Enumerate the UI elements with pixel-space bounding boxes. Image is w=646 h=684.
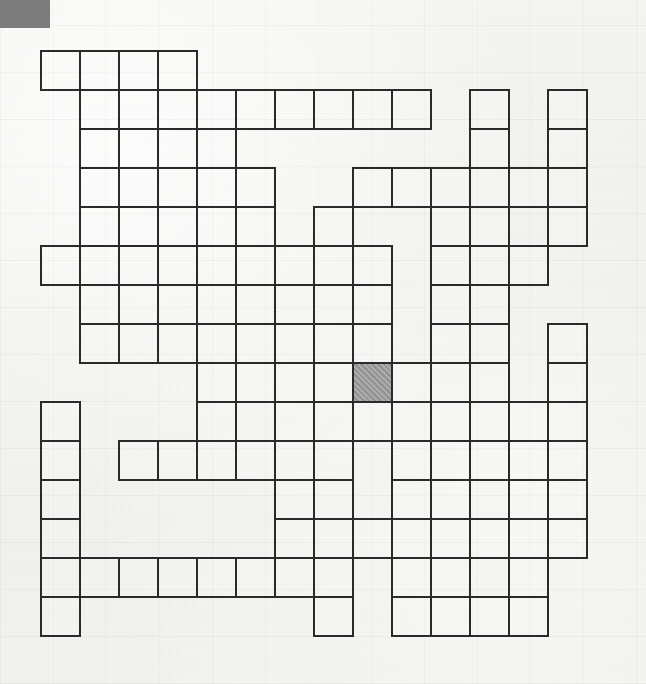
crossword-cell[interactable] — [157, 557, 198, 598]
crossword-cell[interactable] — [469, 167, 510, 208]
crossword-cell[interactable] — [196, 362, 237, 403]
crossword-cell[interactable] — [313, 362, 354, 403]
crossword-cell[interactable] — [196, 245, 237, 286]
crossword-cell[interactable] — [391, 440, 432, 481]
crossword-cell[interactable] — [235, 440, 276, 481]
crossword-cell[interactable] — [196, 401, 237, 442]
crossword-cell[interactable] — [391, 89, 432, 130]
crossword-cell[interactable] — [469, 245, 510, 286]
crossword-cell[interactable] — [235, 362, 276, 403]
crossword-cell[interactable] — [235, 323, 276, 364]
crossword-cell[interactable] — [430, 518, 471, 559]
crossword-cell[interactable] — [547, 479, 588, 520]
crossword-cell[interactable] — [430, 206, 471, 247]
crossword-cell[interactable] — [547, 323, 588, 364]
crossword-cell[interactable] — [430, 245, 471, 286]
crossword-cell[interactable] — [157, 323, 198, 364]
crossword-cell[interactable] — [118, 323, 159, 364]
crossword-cell[interactable] — [469, 89, 510, 130]
crossword-cell[interactable] — [79, 50, 120, 91]
crossword-cell[interactable] — [157, 128, 198, 169]
crossword-cell[interactable] — [469, 596, 510, 637]
crossword-cell[interactable] — [508, 167, 549, 208]
crossword-cell[interactable] — [391, 167, 432, 208]
crossword-cell[interactable] — [547, 89, 588, 130]
crossword-cell[interactable] — [469, 440, 510, 481]
crossword-cell[interactable] — [469, 323, 510, 364]
crossword-cell[interactable] — [391, 518, 432, 559]
crossword-cell[interactable] — [118, 440, 159, 481]
crossword-cell[interactable] — [196, 128, 237, 169]
crossword-cell[interactable] — [274, 401, 315, 442]
crossword-cell[interactable] — [352, 284, 393, 325]
crossword-cell[interactable] — [313, 401, 354, 442]
crossword-cell[interactable] — [235, 89, 276, 130]
crossword-cell[interactable] — [157, 50, 198, 91]
crossword-cell[interactable] — [274, 89, 315, 130]
crossword-cell[interactable] — [40, 440, 81, 481]
crossword-cell[interactable] — [352, 89, 393, 130]
crossword-cell[interactable] — [235, 167, 276, 208]
crossword-cell[interactable] — [352, 401, 393, 442]
crossword-cell[interactable] — [430, 440, 471, 481]
crossword-cell[interactable] — [352, 323, 393, 364]
crossword-cell[interactable] — [118, 557, 159, 598]
crossword-cell[interactable] — [196, 206, 237, 247]
crossword-cell[interactable] — [352, 167, 393, 208]
crossword-cell[interactable] — [391, 596, 432, 637]
crossword-cell[interactable] — [313, 323, 354, 364]
crossword-cell[interactable] — [469, 128, 510, 169]
crossword-cell[interactable] — [352, 518, 393, 559]
crossword-cell[interactable] — [79, 323, 120, 364]
crossword-cell[interactable] — [157, 206, 198, 247]
crossword-cell[interactable] — [157, 89, 198, 130]
crossword-cell[interactable] — [508, 518, 549, 559]
crossword-cell[interactable] — [430, 167, 471, 208]
crossword-cell[interactable] — [547, 128, 588, 169]
crossword-cell[interactable] — [430, 596, 471, 637]
crossword-cell[interactable] — [508, 401, 549, 442]
crossword-cell[interactable] — [40, 479, 81, 520]
crossword-cell[interactable] — [430, 362, 471, 403]
crossword-cell[interactable] — [79, 206, 120, 247]
crossword-cell[interactable] — [391, 557, 432, 598]
crossword-cell[interactable] — [313, 479, 354, 520]
crossword-cell[interactable] — [313, 596, 354, 637]
crossword-cell[interactable] — [469, 206, 510, 247]
crossword-cell[interactable] — [235, 557, 276, 598]
crossword-cell[interactable] — [40, 518, 81, 559]
crossword-cell[interactable] — [157, 284, 198, 325]
crossword-cell[interactable] — [274, 284, 315, 325]
crossword-cell[interactable] — [547, 167, 588, 208]
crossword-cell[interactable] — [430, 284, 471, 325]
crossword-cell[interactable] — [352, 362, 393, 403]
crossword-cell[interactable] — [274, 440, 315, 481]
crossword-cell[interactable] — [118, 128, 159, 169]
crossword-cell[interactable] — [391, 362, 432, 403]
crossword-cell[interactable] — [547, 362, 588, 403]
crossword-cell[interactable] — [391, 401, 432, 442]
crossword-cell[interactable] — [79, 128, 120, 169]
crossword-cell[interactable] — [313, 89, 354, 130]
crossword-cell[interactable] — [469, 401, 510, 442]
crossword-cell[interactable] — [274, 245, 315, 286]
crossword-cell[interactable] — [508, 557, 549, 598]
crossword-cell[interactable] — [313, 284, 354, 325]
crossword-cell[interactable] — [157, 440, 198, 481]
crossword-cell[interactable] — [313, 440, 354, 481]
crossword-cell[interactable] — [547, 206, 588, 247]
crossword-cell[interactable] — [313, 245, 354, 286]
crossword-cell[interactable] — [79, 89, 120, 130]
crossword-cell[interactable] — [391, 479, 432, 520]
crossword-cell[interactable] — [508, 440, 549, 481]
crossword-cell[interactable] — [274, 479, 315, 520]
crossword-cell[interactable] — [157, 167, 198, 208]
crossword-cell[interactable] — [118, 50, 159, 91]
crossword-cell[interactable] — [508, 479, 549, 520]
crossword-cell[interactable] — [235, 206, 276, 247]
crossword-cell[interactable] — [40, 50, 81, 91]
crossword-cell[interactable] — [313, 518, 354, 559]
crossword-cell[interactable] — [508, 596, 549, 637]
crossword-cell[interactable] — [118, 284, 159, 325]
crossword-cell[interactable] — [235, 245, 276, 286]
